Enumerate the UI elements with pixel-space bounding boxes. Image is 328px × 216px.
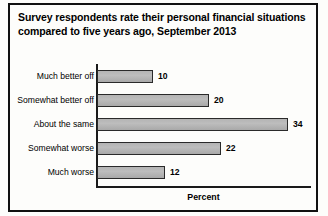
category-label-somewhat-better-off: Somewhat better off: [17, 94, 94, 107]
bar-row: Somewhat better off 20: [0, 94, 328, 107]
x-axis-label: Percent: [96, 192, 311, 202]
x-axis-line: [96, 186, 311, 188]
bar-row: About the same 34: [0, 118, 328, 131]
bar-value-about-the-same: 34: [293, 118, 303, 131]
category-label-somewhat-worse: Somewhat worse: [28, 142, 94, 155]
bar-row: Much better off 10: [0, 70, 328, 83]
bar-about-the-same[interactable]: [97, 118, 288, 131]
category-label-about-the-same: About the same: [34, 118, 94, 131]
bar-much-better-off[interactable]: [97, 70, 153, 83]
plot-area: Much better off 10 Somewhat better off 2…: [0, 0, 328, 216]
bar-row: Somewhat worse 22: [0, 142, 328, 155]
bar-somewhat-better-off[interactable]: [97, 94, 209, 107]
bar-row: Much worse 12: [0, 166, 328, 179]
bar-value-much-better-off: 10: [158, 70, 168, 83]
category-label-much-better-off: Much better off: [37, 70, 94, 83]
category-label-much-worse: Much worse: [48, 166, 94, 179]
bar-value-somewhat-better-off: 20: [214, 94, 224, 107]
figure: Survey respondents rate their personal f…: [0, 0, 328, 216]
bar-much-worse[interactable]: [97, 166, 165, 179]
bar-somewhat-worse[interactable]: [97, 142, 221, 155]
bar-value-much-worse: 12: [170, 166, 180, 179]
bar-value-somewhat-worse: 22: [226, 142, 236, 155]
